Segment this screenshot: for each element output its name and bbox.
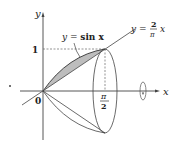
y-tick-label: 1 [32, 45, 38, 55]
rotation-arrowhead-icon [142, 93, 144, 96]
stray-dot [9, 85, 11, 87]
origin-label: 0 [35, 96, 41, 106]
line-label-lhs: y = [130, 24, 147, 34]
line-label-var: x [160, 24, 165, 34]
y-axis-arrow-icon [42, 12, 45, 17]
line-label-frac-num: 2 [151, 19, 157, 29]
x-tick-numerator: π [100, 92, 107, 101]
revolution-diagram: y x 0 1 π 2 y = sin x y = 2 π x [0, 0, 177, 148]
y-axis-label: y [34, 8, 41, 19]
label-leader-line [74, 43, 80, 57]
reflected-line [43, 91, 105, 133]
x-axis-label: x [163, 86, 169, 97]
line-label-frac-den: π [149, 31, 155, 39]
x-tick-denominator: 2 [101, 101, 107, 111]
x-axis-arrow-icon [155, 90, 160, 93]
sine-label: y = sin x [61, 32, 105, 42]
